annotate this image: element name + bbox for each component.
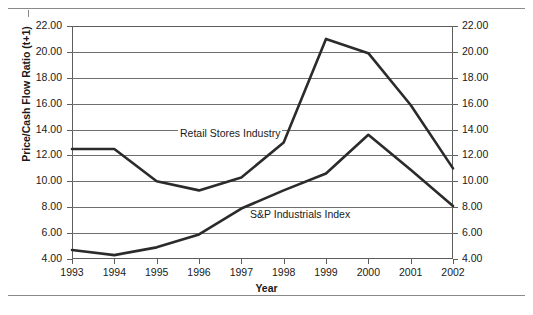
x-axis-tick [199, 259, 200, 264]
y-axis-tick-label-right: 4.00 [462, 253, 482, 264]
y-axis-tick [453, 233, 458, 234]
y-axis-tick-label: 8.00 [42, 201, 62, 212]
y-axis-tick-label-right: 8.00 [462, 201, 482, 212]
x-axis-tick [368, 259, 369, 264]
y-axis-tick-label: 12.00 [36, 149, 62, 160]
y-axis-tick-label-right: 16.00 [462, 98, 488, 109]
y-axis-tick [453, 130, 458, 131]
x-axis-tick-label: 2000 [345, 266, 391, 278]
x-axis-tick-label: 1994 [91, 266, 137, 278]
y-axis-tick [453, 78, 458, 79]
document-top-rule [8, 8, 525, 9]
x-axis-tick-label: 2002 [430, 266, 476, 278]
y-axis-tick [453, 52, 458, 53]
x-axis-tick-label: 1997 [218, 266, 264, 278]
x-axis-tick [284, 259, 285, 264]
y-axis-tick-label: 20.00 [36, 46, 62, 57]
figure-root: Price/Cash Flow Ratio (t+1) 22.0020.0018… [0, 0, 533, 315]
series-label-retail-stores-industry: Retail Stores Industry [178, 127, 282, 139]
x-axis-tick [114, 259, 115, 264]
y-axis-tick-label: 16.00 [36, 98, 62, 109]
y-axis-tick-label-right: 10.00 [462, 175, 488, 186]
x-axis-tick-label: 1999 [303, 266, 349, 278]
y-axis-tick-label-right: 12.00 [462, 149, 488, 160]
x-axis-tick [241, 259, 242, 264]
series-label-sp-industrials-index: S&P Industrials Index [248, 208, 352, 220]
y-axis-tick-label: 4.00 [42, 253, 62, 264]
y-axis-tick-label: 14.00 [36, 124, 62, 135]
x-axis-tick [411, 259, 412, 264]
x-axis-tick [326, 259, 327, 264]
y-axis-tick-label: 18.00 [36, 72, 62, 83]
y-axis-tick [453, 155, 458, 156]
y-axis-tick [453, 104, 458, 105]
y-axis-tick [453, 26, 458, 27]
series-line [72, 39, 453, 190]
y-axis-tick-label: 6.00 [42, 227, 62, 238]
x-axis-tick-label: 1995 [134, 266, 180, 278]
y-axis-tick-label: 10.00 [36, 175, 62, 186]
x-axis-tick-label: 2001 [388, 266, 434, 278]
x-axis-title: Year [0, 282, 533, 294]
x-axis-tick-label: 1993 [49, 266, 95, 278]
x-axis-tick [157, 259, 158, 264]
x-axis-tick [453, 259, 454, 264]
y-axis-tick [453, 207, 458, 208]
x-axis-tick [72, 259, 73, 264]
x-axis-tick-label: 1998 [261, 266, 307, 278]
x-axis-tick-label: 1996 [176, 266, 222, 278]
document-bottom-rule [8, 295, 525, 296]
y-axis-tick-label-right: 22.00 [462, 20, 488, 31]
y-axis-tick [453, 181, 458, 182]
y-axis-tick-label-right: 18.00 [462, 72, 488, 83]
series-line [72, 135, 453, 255]
series-plot-layer [72, 26, 453, 259]
y-axis-title: Price/Cash Flow Ratio (t+1) [20, 4, 32, 184]
y-axis-tick-label-right: 20.00 [462, 46, 488, 57]
y-axis-tick-label-right: 14.00 [462, 124, 488, 135]
y-axis-tick-label: 22.00 [36, 20, 62, 31]
y-axis-tick-label-right: 6.00 [462, 227, 482, 238]
